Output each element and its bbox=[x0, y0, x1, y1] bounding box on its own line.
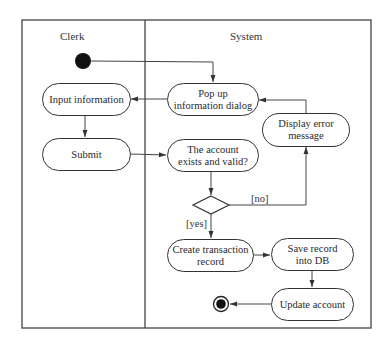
guard-yes: [yes] bbox=[186, 218, 207, 229]
activity-check-account: The account exists and valid? bbox=[167, 139, 259, 172]
initial-node bbox=[75, 53, 91, 69]
edge-start-popup bbox=[91, 61, 213, 82]
swimlane-frame bbox=[22, 20, 371, 328]
decision-node bbox=[193, 196, 229, 214]
activity-display-error: Display error message bbox=[262, 113, 350, 147]
edge-submit-check bbox=[130, 154, 166, 155]
guard-no: [no] bbox=[251, 193, 269, 204]
lane-label-system: System bbox=[230, 30, 262, 42]
activity-submit: Submit bbox=[42, 138, 131, 171]
activity-create-transaction: Create transaction record bbox=[167, 239, 254, 272]
lane-label-clerk: Clerk bbox=[60, 30, 84, 42]
activity-input-information: Input information bbox=[42, 83, 131, 116]
activity-update-account: Update account bbox=[271, 288, 354, 321]
activity-popup-dialog: Pop up information dialog bbox=[167, 83, 259, 116]
activity-save-record: Save record into DB bbox=[271, 238, 354, 271]
edge-error-popup bbox=[259, 100, 306, 113]
